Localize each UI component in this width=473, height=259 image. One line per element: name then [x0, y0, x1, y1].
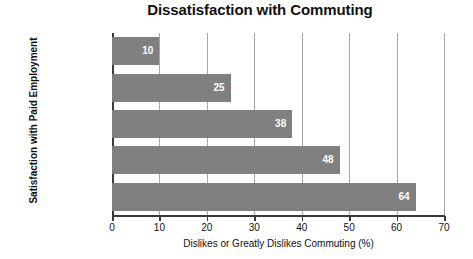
x-tick-label: 0 [92, 222, 132, 233]
x-tick-label: 70 [424, 222, 464, 233]
x-tick-mark [397, 216, 399, 221]
bar-row: 48 [112, 146, 444, 174]
x-tick-label: 30 [234, 222, 274, 233]
bar: 64 [112, 183, 416, 211]
bar: 10 [112, 37, 159, 65]
x-tick-mark [207, 216, 209, 221]
bar-row: 25 [112, 74, 444, 102]
x-axis-line [112, 215, 445, 217]
bar-row: 64 [112, 183, 444, 211]
bar: 38 [112, 110, 292, 138]
x-tick-label: 20 [187, 222, 227, 233]
bar: 48 [112, 146, 340, 174]
x-tick-mark [254, 216, 256, 221]
chart-title: Dissatisfaction with Commuting [60, 1, 460, 18]
bar-value-label: 25 [213, 83, 224, 93]
x-tick-label: 40 [282, 222, 322, 233]
bar-value-label: 48 [323, 155, 334, 165]
x-tick-label: 10 [139, 222, 179, 233]
plot-area: 1025384864 [112, 33, 444, 215]
bar-value-label: 38 [275, 119, 286, 129]
bar-row: 10 [112, 37, 444, 65]
x-tick-mark [349, 216, 351, 221]
x-tick-mark [302, 216, 304, 221]
x-tick-label: 50 [329, 222, 369, 233]
bar-chart: Dissatisfaction with Commuting Satisfact… [0, 0, 473, 259]
bar-value-label: 64 [398, 192, 409, 202]
x-tick-mark [112, 216, 114, 221]
gridline [444, 33, 445, 215]
x-tick-label: 60 [377, 222, 417, 233]
x-tick-mark [159, 216, 161, 221]
bar-value-label: 10 [142, 46, 153, 56]
bar: 25 [112, 74, 231, 102]
x-axis-title: Dislikes or Greatly Dislikes Commuting (… [112, 238, 445, 249]
y-axis-title: Satisfaction with Paid Employment [28, 26, 39, 216]
x-tick-mark [444, 216, 446, 221]
bar-row: 38 [112, 110, 444, 138]
